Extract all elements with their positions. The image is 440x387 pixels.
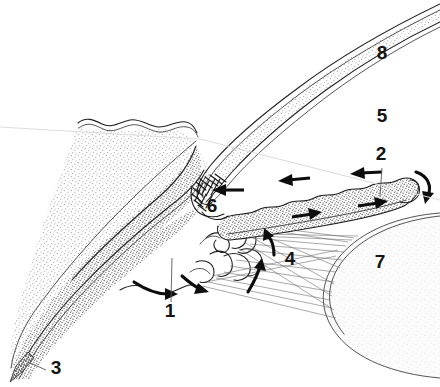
arrow-posterior-chamber-secretion-right — [182, 276, 209, 294]
arrow-anterior-chamber-left-2 — [350, 167, 382, 179]
figure-canvas: 1 2 3 4 5 6 7 8 — [0, 0, 440, 387]
arrow-anterior-chamber-left-1 — [278, 174, 310, 186]
label-7: 7 — [375, 251, 386, 272]
label-5: 5 — [377, 105, 388, 126]
label-2: 2 — [376, 143, 387, 164]
label-1: 1 — [165, 300, 176, 321]
label-4: 4 — [285, 248, 296, 269]
label-3: 3 — [51, 357, 62, 378]
region-lens — [323, 213, 440, 378]
label-6: 6 — [207, 195, 218, 216]
region-cornea — [197, 4, 440, 204]
anatomical-figure: 1 2 3 4 5 6 7 8 — [0, 0, 440, 387]
label-8: 8 — [377, 42, 388, 63]
